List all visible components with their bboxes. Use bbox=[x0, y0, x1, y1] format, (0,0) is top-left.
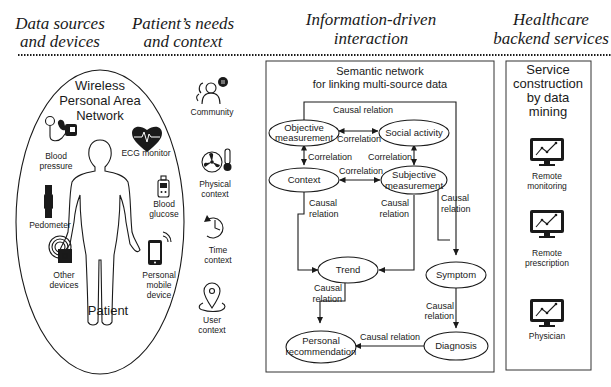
device-label-blood-glucose-1: Blood bbox=[153, 199, 175, 209]
svg-text:Trend: Trend bbox=[336, 264, 360, 275]
context-label-time-1: Time bbox=[209, 245, 228, 255]
svg-text:Diagnosis: Diagnosis bbox=[435, 340, 477, 351]
device-label-pedometer: Pedometer bbox=[29, 220, 71, 230]
semantic-network-title-2: for linking multi-source data bbox=[313, 78, 448, 90]
edge-label-subj-trend-2: relation bbox=[379, 209, 409, 219]
context-label-user-2: context bbox=[198, 325, 226, 335]
svg-text:Physician: Physician bbox=[529, 331, 566, 341]
device-label-other-devices-2: devices bbox=[50, 280, 79, 290]
svg-text:Personal: Personal bbox=[302, 335, 340, 346]
services-title-1: Service bbox=[526, 62, 569, 77]
edge-label-context-trend-2: relation bbox=[309, 209, 339, 219]
device-label-blood-pressure-2: pressure bbox=[39, 161, 72, 171]
header-patient-needs-line1: Patient’s needs bbox=[131, 14, 235, 33]
edge-label-context-trend-1: Causal bbox=[309, 198, 337, 208]
node-personal-recommendation[interactable]: Personal recommendation bbox=[286, 331, 357, 363]
context-label-physical-2: context bbox=[201, 189, 229, 199]
edge-label-obj-context: Correlation bbox=[308, 152, 352, 162]
svg-text:Context: Context bbox=[288, 174, 321, 185]
node-trend[interactable]: Trend bbox=[318, 257, 378, 283]
node-subjective-measurement[interactable]: Subjective measurement bbox=[381, 166, 447, 194]
device-label-blood-pressure-1: Blood bbox=[45, 151, 67, 161]
wpan-title-line1: Wireless bbox=[75, 78, 125, 93]
edge-label-obj-social: Correlation bbox=[337, 134, 381, 144]
pedometer-icon bbox=[44, 185, 53, 218]
edge-label-symptom-diag-1: Causal bbox=[426, 301, 454, 311]
svg-text:Subjective: Subjective bbox=[392, 169, 436, 180]
device-label-mobile-2: mobile bbox=[146, 280, 171, 290]
node-objective-measurement[interactable]: Objective measurement bbox=[269, 120, 339, 146]
semantic-network-title-1: Semantic network bbox=[336, 65, 424, 77]
physician-service[interactable]: Physician bbox=[529, 299, 566, 341]
services-panel: Service construction by data mining Remo… bbox=[506, 61, 591, 370]
header-backend-line1: Healthcare bbox=[512, 10, 589, 29]
wpan-title-line3: Network bbox=[76, 108, 124, 123]
header-interaction-line1: Information-driven bbox=[305, 10, 436, 29]
svg-text:prescription: prescription bbox=[525, 258, 569, 268]
svg-text:recommendation: recommendation bbox=[286, 346, 357, 357]
device-label-blood-glucose-2: glucose bbox=[149, 209, 179, 219]
wpan-section: Wireless Personal Area Network Blood pre… bbox=[16, 70, 184, 374]
wpan-title-line2: Personal Area bbox=[59, 93, 141, 108]
device-label-other-devices-1: Other bbox=[53, 270, 74, 280]
device-label-ecg-monitor: ECG monitor bbox=[121, 148, 170, 158]
svg-text:Social activity: Social activity bbox=[385, 127, 443, 138]
physical-context-icon bbox=[202, 149, 232, 172]
edge-label-trend-rec-1: Causal bbox=[314, 283, 342, 293]
svg-text:Remote: Remote bbox=[532, 248, 562, 258]
svg-text:Remote: Remote bbox=[532, 171, 562, 181]
services-title-2: construction bbox=[513, 76, 583, 91]
semantic-network-panel: Semantic network for linking multi-sourc… bbox=[266, 61, 494, 372]
edge-label-trend-rec-2: relation bbox=[312, 294, 342, 304]
column-headers: Data sources and devices Patient’s needs… bbox=[14, 10, 611, 55]
device-label-mobile-1: Personal bbox=[142, 270, 176, 280]
header-interaction-line2: interaction bbox=[334, 29, 409, 48]
services-title-4: mining bbox=[529, 104, 567, 119]
node-diagnosis[interactable]: Diagnosis bbox=[424, 332, 488, 360]
edge-label-subj-trend-1: Causal bbox=[381, 198, 409, 208]
edge-label-subj-symptom-1: Causal bbox=[441, 193, 469, 203]
header-patient-needs-line2: and context bbox=[144, 32, 224, 51]
community-icon bbox=[197, 77, 228, 104]
svg-text:measurement: measurement bbox=[275, 132, 333, 143]
svg-text:monitoring: monitoring bbox=[527, 181, 567, 191]
context-label-user-1: User bbox=[203, 315, 221, 325]
patient-label: Patient bbox=[88, 303, 129, 318]
context-label-physical-1: Physical bbox=[199, 179, 231, 189]
svg-text:Symptom: Symptom bbox=[436, 269, 476, 280]
node-social-activity[interactable]: Social activity bbox=[379, 120, 449, 146]
header-backend-line2: backend services bbox=[493, 29, 609, 48]
node-symptom[interactable]: Symptom bbox=[426, 262, 486, 288]
node-context[interactable]: Context bbox=[269, 168, 339, 192]
context-label-community: Community bbox=[191, 107, 235, 117]
edge-label-symptom-diag-2: relation bbox=[424, 311, 454, 321]
time-context-icon bbox=[204, 215, 223, 238]
edge-label-top-causal: Causal relation bbox=[333, 105, 393, 115]
edge-label-subj-symptom-2: relation bbox=[441, 204, 471, 214]
user-context-icon bbox=[199, 283, 225, 312]
edge-label-social-subj: Correlation bbox=[368, 152, 412, 162]
header-data-sources-line1: Data sources bbox=[14, 14, 105, 33]
edge-label-diag-rec: Causal relation bbox=[360, 332, 420, 342]
edge-label-context-subj: Correlation bbox=[339, 166, 383, 176]
architecture-diagram: Data sources and devices Patient’s needs… bbox=[0, 0, 611, 387]
svg-text:measurement: measurement bbox=[385, 180, 443, 191]
context-label-time-2: context bbox=[204, 255, 232, 265]
context-section: Community Physical context Time context … bbox=[191, 77, 235, 335]
services-title-3: by data bbox=[527, 90, 570, 105]
device-label-mobile-3: device bbox=[147, 290, 172, 300]
header-data-sources-line2: and devices bbox=[20, 32, 100, 51]
